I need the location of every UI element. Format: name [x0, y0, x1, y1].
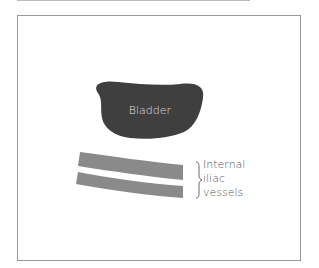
- anatomy-diagram: Bladder Internal iliac vessels: [0, 0, 319, 268]
- vessels-label-line3: vessels: [203, 186, 243, 199]
- bladder-label: Bladder: [129, 104, 172, 117]
- vessels-label-line1: Internal: [203, 158, 245, 171]
- vessels-label-line2: iliac: [203, 172, 225, 185]
- brace-icon: [196, 162, 202, 198]
